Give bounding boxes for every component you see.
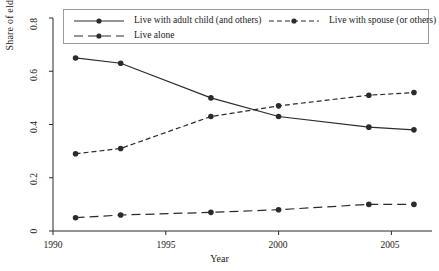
data-point (411, 202, 417, 208)
data-point (366, 202, 372, 208)
axis-lines (53, 18, 432, 231)
chart-container: Share of elderly 0.8 0.6 0.4 0.2 0 1990 … (0, 0, 439, 271)
data-point (411, 127, 417, 133)
data-point (366, 124, 372, 130)
series-0 (73, 55, 417, 132)
data-point (276, 114, 282, 120)
data-point (118, 212, 124, 218)
data-point (208, 95, 214, 101)
series-2 (73, 202, 417, 221)
data-point (73, 215, 79, 221)
data-point (411, 90, 417, 96)
legend-label-live-alone: Live alone (134, 30, 174, 40)
data-point (276, 207, 282, 213)
data-point (73, 55, 79, 61)
legend-label-adult-child: Live with adult child (and others) (134, 15, 261, 25)
data-point (208, 114, 214, 120)
data-point (73, 151, 79, 157)
data-point (366, 92, 372, 98)
data-point (118, 146, 124, 152)
series-layer (73, 55, 417, 220)
data-point (208, 210, 214, 216)
series-1 (73, 90, 417, 157)
tick-marks (49, 18, 391, 235)
legend: Live with adult child (and others) Live … (63, 9, 429, 44)
data-point (276, 103, 282, 109)
legend-label-spouse: Live with spouse (or others) (329, 15, 436, 25)
data-point (118, 60, 124, 66)
